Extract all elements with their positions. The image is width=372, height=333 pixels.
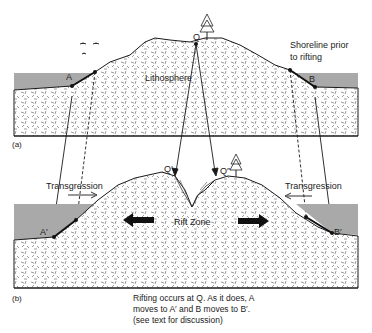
shoreline-annotation-line1: Shoreline prior [290, 40, 349, 50]
lithosphere-label: Lithosphere [145, 73, 192, 83]
point-q-double-prime-label: Q″ [220, 166, 230, 176]
shoreline-annotation-line2: to rifting [290, 52, 322, 62]
tree-icon [230, 154, 242, 177]
transgression-arrow-left [68, 192, 97, 198]
panel-b-label: (b) [12, 294, 22, 304]
transgression-left-label: Transgression [46, 181, 103, 191]
panel-a-label: (a) [12, 140, 22, 150]
tree-icon [200, 14, 214, 40]
birds-icon [80, 43, 99, 54]
point-b-prime-label: B′ [334, 227, 342, 237]
point-a-prime-label: A′ [40, 227, 48, 237]
caption-line-3: (see text for discussion) [133, 315, 254, 326]
caption-line-2: moves to A′ and B moves to B′. [133, 304, 254, 315]
point-a-label: A [66, 72, 72, 82]
point-b-label: B [309, 74, 315, 84]
rift-zone-label: Rift Zone [174, 217, 211, 227]
point-q-label: Q [193, 32, 200, 42]
caption-line-1: Rifting occurs at Q. As it does, A [133, 293, 254, 304]
transgression-right-label: Transgression [285, 181, 342, 191]
figure-caption: Rifting occurs at Q. As it does, A moves… [133, 293, 254, 326]
point-q-prime-label: Q′ [164, 164, 173, 174]
transgression-arrow-right [285, 193, 312, 199]
